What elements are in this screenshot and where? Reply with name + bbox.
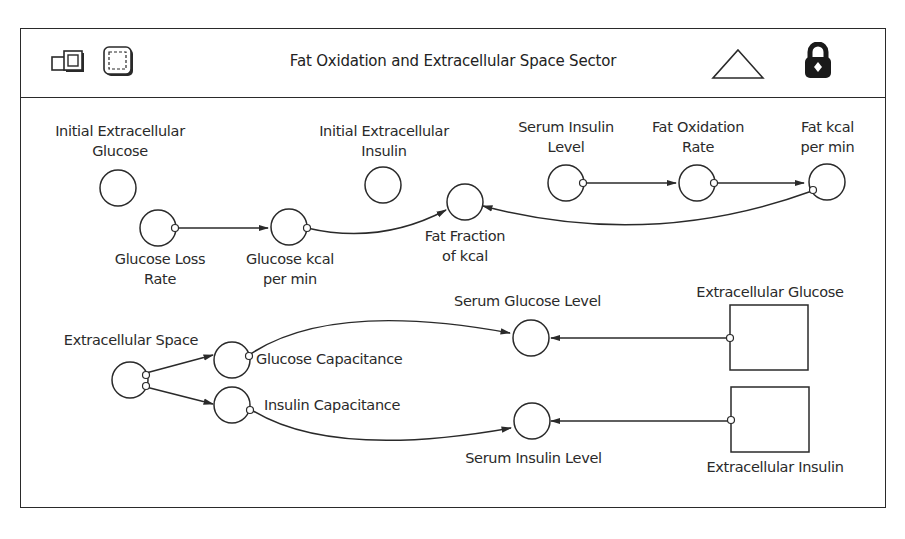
stock-extracellular-glucose[interactable] xyxy=(730,305,808,370)
label-fat-fraction-of-kcal: Fat Fraction of kcal xyxy=(410,226,520,266)
converter-fat-fraction-of-kcal[interactable] xyxy=(447,184,483,220)
label-extracellular-insulin: Extracellular Insulin xyxy=(685,457,865,477)
converter-initial-extracellular-insulin[interactable] xyxy=(365,167,401,203)
label-fat-kcal-per-min: Fat kcal per min xyxy=(785,117,870,157)
connector-origin-dot xyxy=(143,372,150,379)
converter-insulin-capacitance[interactable] xyxy=(214,387,250,423)
label-initial-extracellular-glucose: Initial Extracellular Glucose xyxy=(40,121,200,161)
connector-fat-kcal-to-fat-fraction[interactable] xyxy=(483,191,812,225)
connector-ecs-to-glucose-capacitance[interactable] xyxy=(146,355,213,373)
connector-origin-dot xyxy=(246,353,253,360)
label-line: Serum Insulin xyxy=(506,117,626,137)
label-serum-insulin-level-top: Serum Insulin Level xyxy=(506,117,626,157)
label-line: Glucose kcal xyxy=(230,249,350,269)
connector-origin-dot xyxy=(247,407,254,414)
converter-initial-extracellular-glucose[interactable] xyxy=(100,170,136,206)
label-line: Insulin xyxy=(304,141,464,161)
connector-origin-dot xyxy=(172,225,179,232)
connector-origin-dot xyxy=(580,180,587,187)
converter-fat-kcal-per-min[interactable] xyxy=(809,164,845,200)
connector-origin-dot xyxy=(143,383,150,390)
converter-fat-oxidation-rate[interactable] xyxy=(679,165,715,201)
label-insulin-capacitance: Insulin Capacitance xyxy=(264,395,400,415)
label-extracellular-space: Extracellular Space xyxy=(46,330,216,350)
connector-origin-dot xyxy=(304,225,311,232)
converter-serum-insulin-level-top[interactable] xyxy=(548,165,584,201)
label-glucose-kcal-per-min: Glucose kcal per min xyxy=(230,249,350,289)
label-serum-glucose-level: Serum Glucose Level xyxy=(440,291,615,311)
label-line: Fat Fraction xyxy=(410,226,520,246)
connector-origin-dot xyxy=(810,187,817,194)
label-line: Initial Extracellular xyxy=(304,121,464,141)
converter-serum-insulin-level-bottom[interactable] xyxy=(514,403,550,439)
label-line: Fat kcal xyxy=(785,117,870,137)
stock-extracellular-insulin[interactable] xyxy=(731,387,809,452)
connector-origin-dot xyxy=(728,417,735,424)
converter-extracellular-space[interactable] xyxy=(112,362,148,398)
label-line: per min xyxy=(785,137,870,157)
label-line: Glucose Loss xyxy=(100,249,220,269)
label-glucose-capacitance: Glucose Capacitance xyxy=(256,349,402,369)
label-line: Initial Extracellular xyxy=(40,121,200,141)
label-fat-oxidation-rate: Fat Oxidation Rate xyxy=(638,117,758,157)
label-line: Rate xyxy=(100,269,220,289)
connector-origin-dot xyxy=(711,180,718,187)
label-line: Rate xyxy=(638,137,758,157)
converter-glucose-loss-rate[interactable] xyxy=(140,210,176,246)
connector-origin-dot xyxy=(727,335,734,342)
label-line: of kcal xyxy=(410,246,520,266)
connector-ecs-to-insulin-capacitance[interactable] xyxy=(146,387,213,404)
converter-glucose-capacitance[interactable] xyxy=(214,342,250,378)
label-initial-extracellular-insulin: Initial Extracellular Insulin xyxy=(304,121,464,161)
label-extracellular-glucose: Extracellular Glucose xyxy=(680,282,860,302)
converter-glucose-kcal-per-min[interactable] xyxy=(271,209,307,245)
label-line: per min xyxy=(230,269,350,289)
label-serum-insulin-level-bottom: Serum Insulin Level xyxy=(446,448,621,468)
label-line: Fat Oxidation xyxy=(638,117,758,137)
converter-serum-glucose-level[interactable] xyxy=(513,320,549,356)
label-line: Glucose xyxy=(40,141,200,161)
label-line: Level xyxy=(506,137,626,157)
label-glucose-loss-rate: Glucose Loss Rate xyxy=(100,249,220,289)
